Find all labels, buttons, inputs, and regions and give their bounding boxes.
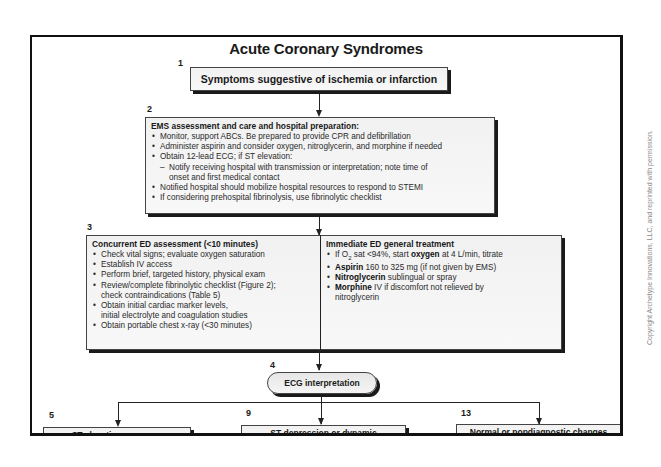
step-9-box: ST depression or dynamic bbox=[241, 425, 406, 436]
step-13-number: 13 bbox=[461, 408, 471, 418]
step-5-number: 5 bbox=[49, 410, 54, 420]
step-1-number: 1 bbox=[178, 58, 183, 68]
list-item-cont: nitroglycerin bbox=[326, 293, 556, 303]
step-4-number: 4 bbox=[270, 360, 275, 370]
list-item: If O2 sat <94%, start oxygen at 4 L/min,… bbox=[326, 250, 556, 263]
list-item: Nitroglycerin sublingual or spray bbox=[326, 273, 556, 283]
step-5-box: ST elevation or new or bbox=[43, 427, 191, 436]
list-subitem: Notify receiving hospital with transmiss… bbox=[151, 163, 489, 173]
list-item: Establish IV access bbox=[92, 260, 317, 270]
step-3-right-header: Immediate ED general treatment bbox=[326, 239, 556, 249]
list-item: Morphine IV if discomfort not relieved b… bbox=[326, 283, 556, 293]
step-2-box: EMS assessment and care and hospital pre… bbox=[145, 117, 495, 214]
step-4-label: ECG interpretation bbox=[284, 378, 360, 388]
step-2-header: EMS assessment and care and hospital pre… bbox=[151, 121, 489, 131]
list-item: Obtain 12-lead ECG; if ST elevation: bbox=[151, 152, 489, 162]
list-item: Perform brief, targeted history, physica… bbox=[92, 270, 317, 280]
list-item: Obtain portable chest x-ray (<30 minutes… bbox=[92, 321, 317, 331]
arrow-down-icon bbox=[115, 420, 121, 427]
step-9-label: ST depression or dynamic bbox=[270, 428, 376, 436]
list-item: Notified hospital should mobilize hospit… bbox=[151, 183, 489, 193]
arrow-down-icon bbox=[316, 110, 322, 117]
list-item: Obtain initial cardiac marker levels, bbox=[92, 301, 317, 311]
flowchart-frame: Acute Coronary Syndromes 1 Symptoms sugg… bbox=[30, 35, 623, 436]
step-3-number: 3 bbox=[87, 222, 92, 232]
list-item: Review/complete fibrinolytic checklist (… bbox=[92, 281, 317, 291]
list-item-cont: initial electrolyte and coagulation stud… bbox=[92, 311, 317, 321]
list-item: Aspirin 160 to 325 mg (if not given by E… bbox=[326, 263, 556, 273]
step-5-label: ST elevation or new or bbox=[72, 430, 163, 436]
list-item: Administer aspirin and consider oxygen, … bbox=[151, 142, 489, 152]
step-2-list: Monitor, support ABCs. Be prepared to pr… bbox=[151, 132, 489, 203]
branch-connector bbox=[118, 402, 540, 403]
arrow-down-icon bbox=[316, 364, 322, 371]
step-4-pill: ECG interpretation bbox=[267, 372, 377, 394]
list-subitem-cont: onset and first medical contact bbox=[151, 173, 489, 183]
list-item: If considering prehospital fibrinolysis,… bbox=[151, 193, 489, 203]
step-13-box: Normal or nondiagnostic changes bbox=[456, 424, 621, 436]
step-3-box: Concurrent ED assessment (<10 minutes) C… bbox=[86, 235, 562, 350]
step-3-right-panel: Immediate ED general treatment If O2 sat… bbox=[326, 239, 556, 304]
connector-1-2 bbox=[319, 94, 320, 111]
step-9-number: 9 bbox=[246, 408, 251, 418]
arrow-down-icon bbox=[318, 418, 324, 425]
list-item: Check vital signs; evaluate oxygen satur… bbox=[92, 250, 317, 260]
step-3-divider bbox=[320, 235, 321, 351]
step-13-label: Normal or nondiagnostic changes bbox=[470, 427, 607, 436]
list-item-cont: check contraindications (Table 5) bbox=[92, 291, 317, 301]
step-2-number: 2 bbox=[147, 104, 152, 114]
copyright-note: Copyright Archetype Innovations, LLC, an… bbox=[646, 130, 653, 345]
step-1-box: Symptoms suggestive of ischemia or infar… bbox=[190, 67, 448, 91]
step-3-left-header: Concurrent ED assessment (<10 minutes) bbox=[92, 239, 317, 249]
step-1-label: Symptoms suggestive of ischemia or infar… bbox=[201, 73, 437, 85]
chart-title: Acute Coronary Syndromes bbox=[32, 40, 620, 57]
list-item: Monitor, support ABCs. Be prepared to pr… bbox=[151, 132, 489, 142]
step-3-left-panel: Concurrent ED assessment (<10 minutes) C… bbox=[92, 239, 317, 332]
